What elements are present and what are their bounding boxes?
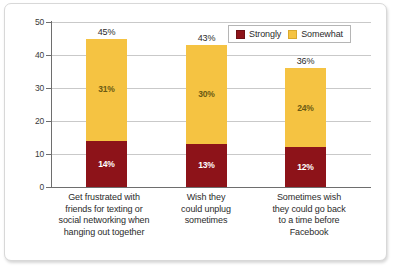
plot-area: 45% 31% 14% 43% 30% 13% 36% 24% (52, 22, 371, 187)
bar-segment-somewhat-3[interactable]: 24% (285, 68, 326, 147)
x-axis-line (51, 187, 371, 188)
bar-segment-strongly-1[interactable]: 14% (86, 141, 127, 187)
x-category-label-1-line-2: friends for texting or (44, 204, 164, 216)
bar-segment-label-strongly-1: 14% (98, 160, 114, 169)
x-category-label-2: Wish they could unplug sometimes (161, 192, 251, 227)
bar-segment-label-strongly-3: 12% (297, 163, 313, 172)
bar-total-label-2: 43% (198, 33, 215, 43)
bar-segment-label-strongly-2: 13% (198, 161, 214, 170)
y-tick-label-50: 50 (24, 17, 44, 27)
legend-label-strongly: Strongly (249, 29, 281, 39)
x-category-label-2-line-3: sometimes (161, 215, 251, 227)
bar-group-3[interactable]: 36% 24% 12% (285, 68, 326, 187)
x-category-label-2-line-2: could unplug (161, 204, 251, 216)
bar-group-1[interactable]: 45% 31% 14% (86, 39, 127, 187)
x-category-label-1: Get frustrated with friends for texting … (44, 192, 164, 238)
x-category-label-3-line-1: Sometimes wish (249, 192, 369, 204)
bar-segment-label-somewhat-3: 24% (297, 104, 313, 113)
x-category-label-1-line-1: Get frustrated with (44, 192, 164, 204)
bar-total-label-3: 36% (297, 56, 314, 66)
x-category-label-3-line-4: Facebook (249, 227, 369, 239)
y-tick-label-30: 30 (24, 83, 44, 93)
x-category-label-1-line-3: social networking when (44, 215, 164, 227)
legend-swatch-strongly-icon (236, 30, 245, 39)
x-category-label-3-line-2: they could go back (249, 204, 369, 216)
bar-group-2[interactable]: 43% 30% 13% (186, 45, 227, 187)
chart-legend[interactable]: Strongly Somewhat (228, 25, 351, 43)
bar-segment-somewhat-1[interactable]: 31% (86, 39, 127, 141)
chart-figure: Percentage 50 40 30 20 10 0 45% 31% 14% (0, 0, 393, 270)
legend-swatch-somewhat-icon (288, 30, 297, 39)
bar-segment-strongly-3[interactable]: 12% (285, 147, 326, 187)
bar-total-label-1: 45% (98, 27, 115, 37)
gridline-50 (52, 22, 371, 23)
bar-segment-label-somewhat-2: 30% (198, 90, 214, 99)
x-category-label-1-line-4: hanging out together (44, 227, 164, 239)
y-tick-label-20: 20 (24, 116, 44, 126)
bar-segment-somewhat-2[interactable]: 30% (186, 45, 227, 144)
legend-entry-strongly[interactable]: Strongly (236, 29, 281, 39)
x-category-label-2-line-1: Wish they (161, 192, 251, 204)
legend-entry-somewhat[interactable]: Somewhat (288, 29, 343, 39)
bar-segment-label-somewhat-1: 31% (98, 85, 114, 94)
x-category-label-3: Sometimes wish they could go back to a t… (249, 192, 369, 238)
x-category-label-3-line-3: to a time before (249, 215, 369, 227)
y-tick-label-10: 10 (24, 149, 44, 159)
y-tick-label-40: 40 (24, 50, 44, 60)
bar-segment-strongly-2[interactable]: 13% (186, 144, 227, 187)
y-tick-label-0: 0 (24, 182, 44, 192)
legend-label-somewhat: Somewhat (301, 29, 343, 39)
